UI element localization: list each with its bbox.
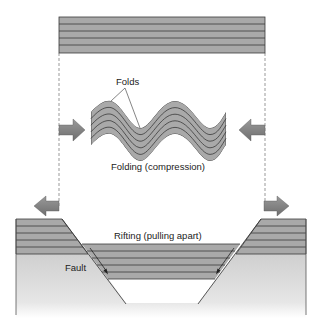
folding-caption: Folding (compression)	[111, 161, 205, 172]
folded-strata	[91, 101, 226, 161]
right-strata-block	[236, 219, 306, 254]
geology-diagram: Folds Folding (compression)	[0, 0, 321, 333]
extension-arrow-left	[34, 196, 59, 216]
compression-arrow-left	[239, 119, 265, 141]
compression-arrow-right	[59, 119, 85, 141]
fault-label: Fault	[65, 262, 86, 273]
left-strata-block	[16, 219, 88, 254]
extension-arrow-right	[264, 196, 289, 216]
folds-label: Folds	[116, 76, 139, 87]
original-strata-block	[59, 17, 265, 53]
rifting-caption: Rifting (pulling apart)	[114, 230, 202, 241]
folds-leader-left	[111, 88, 125, 101]
